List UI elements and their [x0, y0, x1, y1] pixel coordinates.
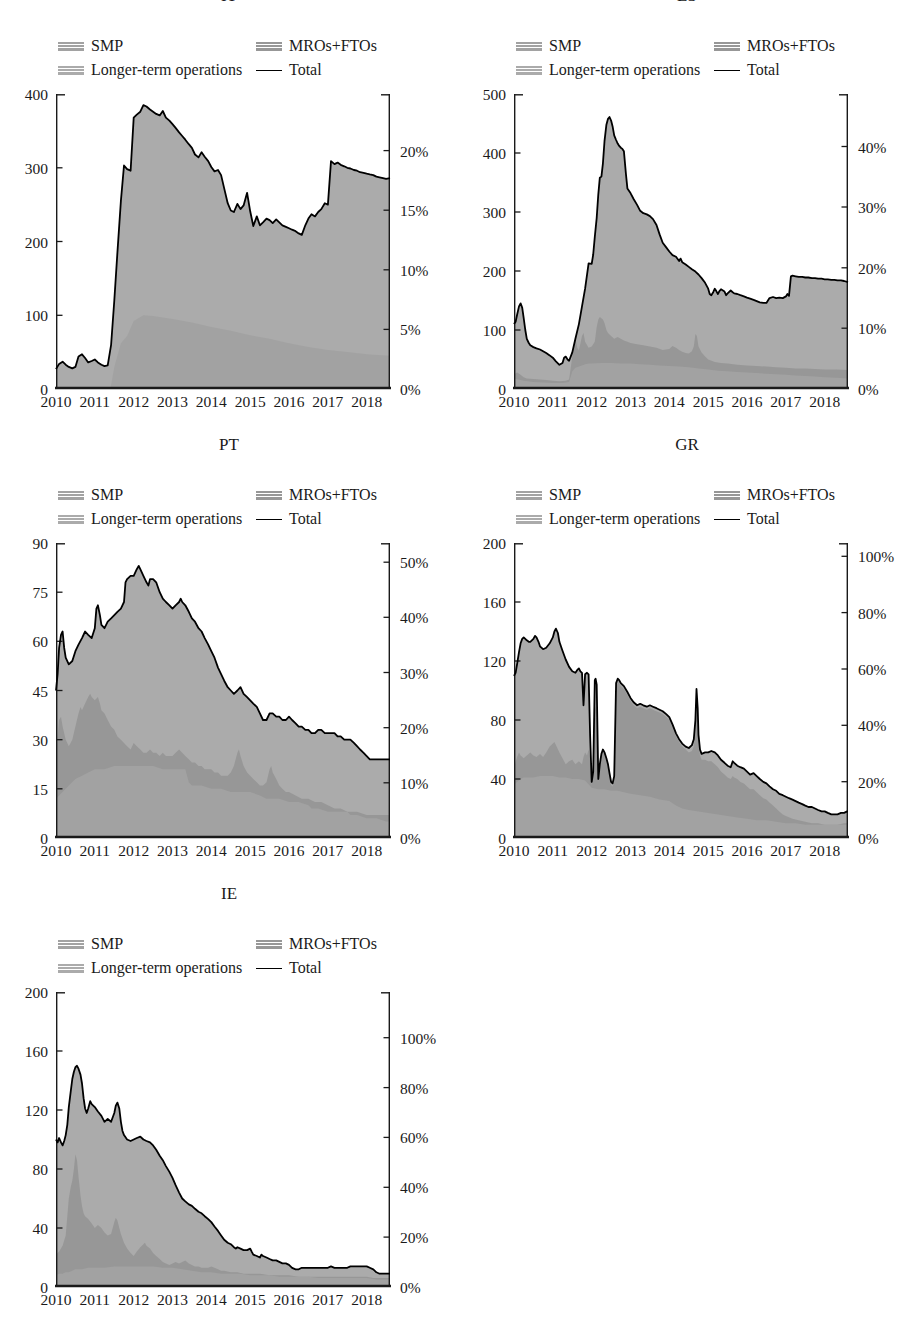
x-axis-label: 2015	[235, 842, 266, 860]
right-axis-label: 40%	[858, 718, 886, 733]
x-axis-label: 2012	[118, 842, 149, 860]
right-axis-label: 0%	[858, 831, 879, 846]
x-axis-label: 2018	[351, 393, 382, 411]
right-axis-label: 30%	[400, 665, 428, 680]
right-axis-labels: 0%10%20%30%40%	[848, 94, 916, 389]
left-axis-label: 400	[25, 87, 48, 102]
x-axis-label: 2014	[654, 393, 685, 411]
x-axis-label: 2017	[770, 842, 801, 860]
left-axis-label: 200	[25, 234, 48, 249]
x-axis-label: 2010	[499, 842, 530, 860]
legend-label-smp: SMP	[91, 37, 123, 55]
x-axis-label: 2011	[80, 393, 110, 411]
legend-it: SMPMROs+FTOsLonger-term operationsTotal	[58, 34, 458, 82]
legend-item-smp: SMP	[58, 37, 256, 55]
right-axis-label: 30%	[858, 200, 886, 215]
legend-item-smp: SMP	[58, 486, 256, 504]
legend-swatch-smp	[516, 42, 542, 51]
x-axis-label: 2013	[615, 842, 646, 860]
plot-area	[514, 94, 848, 389]
plot-row: 0100200300400 0%5%10%15%20%	[0, 94, 458, 389]
plot-area	[56, 543, 390, 838]
legend-item-total: Total	[256, 510, 458, 528]
x-axis-label: 2013	[157, 393, 188, 411]
legend-swatch-mros	[256, 42, 282, 51]
left-axis-label: 120	[483, 654, 506, 669]
legend-swatch-smp	[58, 940, 84, 949]
right-axis-labels: 0%20%40%60%80%100%	[390, 992, 458, 1287]
right-axis-label: 50%	[400, 555, 428, 570]
x-axis-label: 2012	[576, 842, 607, 860]
empty-cell	[458, 884, 916, 1313]
plot-row: 0153045607590 0%10%20%30%40%50%	[0, 543, 458, 838]
left-axis-label: 60	[33, 634, 49, 649]
legend-item-mros: MROs+FTOs	[714, 486, 916, 504]
chart-ie: IE SMPMROs+FTOsLonger-term operationsTot…	[0, 884, 458, 1313]
legend-label-longer: Longer-term operations	[91, 510, 242, 528]
legend-swatch-mros	[256, 491, 282, 500]
legend-label-mros: MROs+FTOs	[289, 37, 377, 55]
chart-plot-svg	[56, 992, 390, 1287]
legend-label-total: Total	[289, 61, 322, 79]
legend-item-longer: Longer-term operations	[516, 510, 714, 528]
chart-gr: GR SMPMROs+FTOsLonger-term operationsTot…	[458, 435, 916, 864]
plot-row: 04080120160200 0%20%40%60%80%100%	[0, 992, 458, 1287]
left-axis-label: 90	[33, 536, 49, 551]
x-axis-label: 2017	[312, 393, 343, 411]
legend-label-longer: Longer-term operations	[549, 510, 700, 528]
plot-area	[56, 992, 390, 1287]
x-axis-labels: 201020112012201320142015201620172018	[56, 838, 390, 864]
legend-label-longer: Longer-term operations	[91, 61, 242, 79]
left-axis-label: 30	[33, 732, 49, 747]
right-axis-label: 40%	[400, 610, 428, 625]
chart-it: IT SMPMROs+FTOsLonger-term operationsTot…	[0, 0, 458, 415]
chart-plot-svg	[514, 94, 848, 389]
x-axis-label: 2014	[654, 842, 685, 860]
legend-label-smp: SMP	[549, 486, 581, 504]
left-axis-labels: 0153045607590	[0, 543, 56, 838]
x-axis-label: 2012	[576, 393, 607, 411]
right-axis-label: 20%	[858, 260, 886, 275]
legend-ie: SMPMROs+FTOsLonger-term operationsTotal	[58, 932, 458, 980]
right-axis-label: 10%	[400, 775, 428, 790]
chart-title-es: ES	[458, 0, 916, 6]
figure-page: IT SMPMROs+FTOsLonger-term operationsTot…	[0, 0, 916, 1325]
x-axis-label: 2018	[351, 842, 382, 860]
legend-item-mros: MROs+FTOs	[714, 37, 916, 55]
legend-swatch-total	[256, 519, 282, 520]
area-longer-term	[514, 117, 848, 389]
left-axis-label: 100	[25, 308, 48, 323]
legend-item-smp: SMP	[516, 37, 714, 55]
left-axis-labels: 04080120160200	[458, 543, 514, 838]
legend-label-mros: MROs+FTOs	[747, 37, 835, 55]
legend-label-mros: MROs+FTOs	[289, 486, 377, 504]
left-axis-label: 300	[25, 160, 48, 175]
charts-grid: IT SMPMROs+FTOsLonger-term operationsTot…	[0, 0, 916, 1313]
left-axis-label: 15	[33, 781, 49, 796]
chart-title-pt: PT	[0, 435, 458, 455]
x-axis-label: 2018	[351, 1291, 382, 1309]
right-axis-label: 60%	[400, 1130, 428, 1145]
legend-label-smp: SMP	[549, 37, 581, 55]
legend-swatch-smp	[58, 491, 84, 500]
left-axis-label: 500	[483, 87, 506, 102]
right-axis-label: 0%	[400, 382, 421, 397]
left-axis-label: 80	[491, 713, 507, 728]
left-axis-label: 400	[483, 146, 506, 161]
right-axis-label: 20%	[400, 143, 428, 158]
legend-swatch-mros	[714, 491, 740, 500]
left-axis-label: 160	[483, 595, 506, 610]
legend-es: SMPMROs+FTOsLonger-term operationsTotal	[516, 34, 916, 82]
x-axis-label: 2011	[538, 393, 568, 411]
left-axis-label: 200	[483, 264, 506, 279]
right-axis-labels: 0%10%20%30%40%50%	[390, 543, 458, 838]
x-axis-label: 2017	[312, 842, 343, 860]
x-axis-label: 2013	[157, 842, 188, 860]
right-axis-label: 100%	[400, 1030, 436, 1045]
legend-item-smp: SMP	[516, 486, 714, 504]
x-axis-label: 2015	[693, 393, 724, 411]
chart-plot-svg	[514, 543, 848, 838]
x-axis-label: 2017	[770, 393, 801, 411]
legend-item-mros: MROs+FTOs	[256, 486, 458, 504]
legend-item-longer: Longer-term operations	[58, 959, 256, 977]
